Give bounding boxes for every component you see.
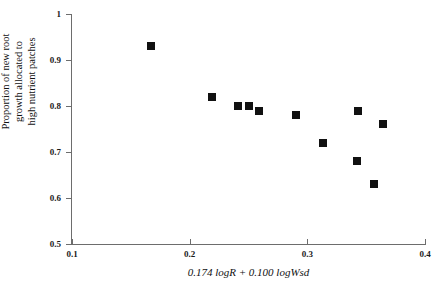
- y-tick-label: 1: [57, 10, 62, 19]
- x-axis-line: [71, 244, 426, 245]
- data-point-marker: [147, 42, 155, 50]
- x-tick-label: 0.1: [57, 250, 87, 259]
- x-axis-title: 0.174 logR + 0.100 logWsd: [72, 266, 425, 279]
- y-axis-title-line-2: growth allocated to: [12, 2, 25, 162]
- y-axis-title: Proportion of new root growth allocated …: [0, 2, 38, 162]
- data-point-marker: [370, 180, 378, 188]
- y-tick-label: 0.5: [50, 240, 61, 249]
- x-tick-label: 0.2: [175, 250, 205, 259]
- y-tick-label: 0.6: [50, 194, 61, 203]
- x-tick-label: 0.3: [292, 250, 322, 259]
- y-axis-title-line-1: Proportion of new root: [0, 2, 12, 162]
- data-point-marker: [208, 93, 216, 101]
- y-tick-label: 0.7: [50, 148, 61, 157]
- data-point-marker: [353, 157, 361, 165]
- x-tick-label: 0.4: [410, 250, 437, 259]
- data-point-marker: [234, 102, 242, 110]
- data-point-marker: [245, 102, 253, 110]
- data-point-marker: [319, 139, 327, 147]
- y-tick-label: 0.8: [50, 102, 61, 111]
- plot-area: [72, 14, 425, 244]
- y-tick-label: 0.9: [50, 56, 61, 65]
- scatter-plot-figure: 0.50.60.70.80.910.10.20.30.4 Proportion …: [0, 0, 437, 291]
- data-point-marker: [379, 120, 387, 128]
- data-point-marker: [292, 111, 300, 119]
- data-point-marker: [255, 107, 263, 115]
- y-axis-title-line-3: high nutrient patches: [25, 2, 38, 162]
- data-point-marker: [354, 107, 362, 115]
- x-tick-mark: [425, 239, 426, 245]
